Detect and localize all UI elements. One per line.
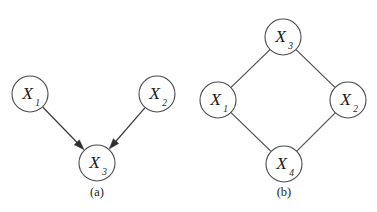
nodes-layer: X1X2X3X3X1X2X4 [12,19,366,182]
captions-layer: (a)(b) [90,185,291,199]
node-variable-letter: X [148,83,161,103]
node-variable-subscript: 3 [101,167,107,177]
graph-node[interactable]: X1 [12,76,48,112]
node-variable-letter: X [21,83,34,103]
graphical-model-figure: X1X2X3X3X1X2X4 (a)(b) [0,0,377,212]
node-variable-subscript: 4 [289,168,294,178]
graph-node[interactable]: X4 [266,146,302,182]
figure-canvas: X1X2X3X3X1X2X4 (a)(b) [0,0,377,212]
graph-node[interactable]: X1 [200,82,236,118]
node-variable-letter: X [275,153,288,173]
node-variable-subscript: 3 [287,41,293,51]
node-variable-subscript: 1 [223,104,228,114]
graph-node[interactable]: X3 [79,145,115,181]
node-variable-subscript: 2 [162,98,167,108]
node-variable-subscript: 2 [353,104,358,114]
undirected-edge [296,50,334,87]
graph-node[interactable]: X3 [265,19,301,55]
node-variable-subscript: 1 [35,98,40,108]
node-variable-letter: X [88,152,101,172]
panel-caption: (b) [277,185,292,199]
directed-edge [43,107,84,149]
undirected-edge [231,50,269,87]
undirected-edge [231,113,270,151]
node-variable-letter: X [274,26,287,46]
directed-edge [109,108,145,149]
node-variable-letter: X [339,89,352,109]
undirected-edge [297,113,335,151]
edges-layer [43,50,335,151]
panel-caption: (a) [90,185,104,199]
graph-node[interactable]: X2 [139,76,175,112]
graph-node[interactable]: X2 [330,82,366,118]
node-variable-letter: X [209,89,222,109]
